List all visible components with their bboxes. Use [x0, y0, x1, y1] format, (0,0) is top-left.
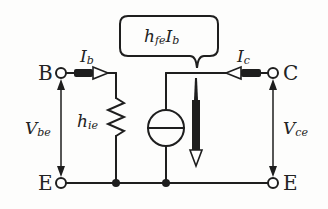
vbe-arrowhead-up-icon: [57, 79, 65, 90]
label-ib: Ib: [79, 46, 94, 67]
vbe-arrowhead-down-icon: [57, 166, 65, 177]
circuit-svg: B E C E Ib Ic Vbe Vce hie hfeIb: [0, 0, 328, 209]
junction-dot: [112, 179, 120, 187]
terminal-emitter-left: [56, 178, 66, 188]
label-hie: hie: [77, 111, 98, 132]
circuit-diagram: B E C E Ib Ic Vbe Vce hie hfeIb: [0, 0, 328, 209]
terminal-base: [56, 68, 66, 78]
hfe-pointer-tip: [194, 78, 198, 100]
label-ic: Ic: [236, 46, 250, 67]
callout-label-hfe-ib: hfeIb: [144, 26, 179, 47]
terminal-collector: [268, 68, 278, 78]
resistor-hie: [108, 98, 124, 136]
junction-dot: [162, 179, 170, 187]
vce-arrowhead-down-icon: [269, 166, 277, 177]
label-emitter-left: E: [38, 171, 53, 195]
label-vbe: Vbe: [25, 118, 51, 139]
ic-arrow-icon: [226, 67, 241, 79]
ic-current-bar: [241, 69, 261, 77]
ib-current-bar: [74, 69, 93, 77]
label-vce: Vce: [283, 118, 308, 139]
label-collector: C: [283, 61, 298, 85]
terminal-emitter-right: [268, 178, 278, 188]
ib-arrow-icon: [93, 67, 108, 79]
hfe-arrow-down-icon: [190, 150, 202, 166]
label-base: B: [38, 61, 53, 85]
vce-arrowhead-up-icon: [269, 79, 277, 90]
hfe-current-bar: [192, 100, 200, 150]
label-emitter-right: E: [283, 171, 298, 195]
